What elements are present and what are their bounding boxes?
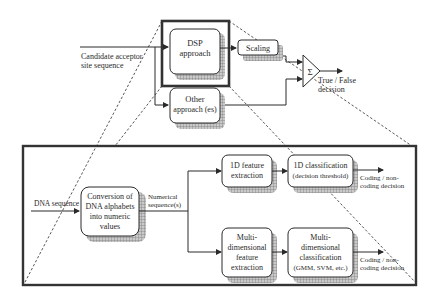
feature-md-line1: Multi-	[237, 233, 258, 242]
conversion-line4: values	[100, 222, 120, 231]
dna-sequence-label: DNA sequence	[34, 199, 80, 208]
classification-1d-box[interactable]: 1D classification (decision threshold)	[288, 155, 358, 193]
output-md-line1: Coding / non-	[360, 256, 400, 264]
class-md-line1: Multi-	[310, 233, 331, 242]
class-1d-line1: 1D classification	[294, 161, 348, 170]
dsp-approach-box[interactable]: DSP approach	[170, 29, 225, 80]
classification-md-box[interactable]: Multi- dimensional classification (GMM, …	[288, 228, 358, 283]
conversion-line1: Conversion of	[87, 192, 133, 201]
feature-1d-line1: 1D feature	[230, 161, 264, 170]
conversion-box[interactable]: Conversion of DNA alphabets into numeric…	[81, 187, 146, 242]
class-md-line2: dimensional	[301, 243, 341, 252]
output-md-line2: coding decision	[360, 264, 405, 272]
conversion-line2: DNA alphabets	[85, 202, 134, 211]
true-false-label-line2: decision	[318, 85, 345, 94]
diagram-canvas: Candidate acceptor site sequence DSP app…	[0, 0, 439, 302]
scaling-label: Scaling	[246, 44, 270, 53]
scaling-box[interactable]: Scaling	[238, 40, 283, 61]
feature-md-box[interactable]: Multi- dimensional feature extraction	[222, 228, 277, 283]
feature-1d-line2: extraction	[231, 171, 263, 180]
other-line2: approach (es)	[173, 105, 217, 114]
other-line1: Other	[185, 94, 205, 104]
numerical-label-line1: Numerical	[148, 193, 178, 201]
feature-md-line3: feature	[236, 253, 259, 262]
feature-md-line2: dimensional	[227, 243, 267, 252]
dsp-line1: DSP	[187, 38, 203, 48]
class-md-line4: (GMM, SVM, etc.)	[293, 264, 348, 272]
other-approach-box[interactable]: Other approach (es)	[170, 88, 225, 129]
conversion-line3: into numeric	[90, 212, 131, 221]
candidate-label-line2: site sequence	[81, 61, 124, 70]
true-false-label-line1: True / False	[318, 76, 356, 85]
sigma-icon: Σ	[307, 67, 312, 77]
feature-1d-box[interactable]: 1D feature extraction	[222, 155, 277, 193]
feature-md-line4: extraction	[231, 263, 263, 272]
output-1d-line1: Coding / non-	[360, 174, 400, 182]
class-md-line3: classification	[299, 253, 341, 262]
dsp-line2: approach	[179, 48, 211, 58]
scaling-to-sum-arrow	[283, 56, 302, 62]
numeric-split-lines	[139, 171, 221, 252]
class-1d-line2: (decision threshold)	[293, 172, 349, 180]
output-1d-line2: coding decision	[360, 182, 405, 190]
other-to-sum-arrow	[225, 79, 302, 105]
candidate-label-line1: Candidate acceptor	[81, 52, 143, 61]
numerical-label-line2: sequence(s)	[148, 201, 182, 209]
